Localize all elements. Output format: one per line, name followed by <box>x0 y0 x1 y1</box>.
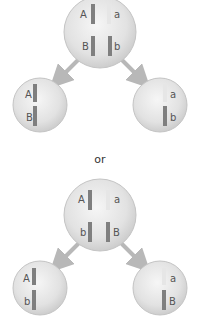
chromosome-a <box>107 4 111 24</box>
arrow-right-icon <box>120 242 142 264</box>
allele-label: A <box>25 89 32 100</box>
chromosome-B <box>162 290 166 310</box>
chromosome-b <box>108 36 112 56</box>
chromosome-A <box>88 190 92 210</box>
allele-label: B <box>26 112 33 123</box>
daughter-cell-right-1: a b <box>133 78 187 132</box>
arrow-left-icon <box>58 242 80 264</box>
parent-cell-1: A a B b <box>64 0 136 68</box>
scenario-1: A a B b A B a b <box>13 0 187 132</box>
diagram-canvas: A a B b A B a b or <box>0 0 200 334</box>
allele-label: A <box>23 273 30 284</box>
allele-label: B <box>169 296 176 307</box>
daughter-cell-left-1: A B <box>13 78 67 132</box>
allele-label: a <box>170 273 176 284</box>
arrow-left-icon <box>58 58 80 80</box>
chromosome-A <box>33 84 37 102</box>
scenario-2: A a b B A b a B <box>13 179 187 315</box>
chromosome-b <box>88 222 92 242</box>
chromosome-b <box>163 106 167 126</box>
daughter-cell-left-2: A b <box>13 261 67 315</box>
chromosome-A <box>91 4 95 24</box>
allele-label: b <box>24 296 30 307</box>
allele-label: a <box>114 194 120 205</box>
or-separator: or <box>94 153 106 166</box>
allele-label: A <box>80 9 87 20</box>
allele-label: b <box>114 41 120 52</box>
arrow-right-icon <box>120 58 142 80</box>
allele-label: b <box>170 112 176 123</box>
chromosome-B <box>106 222 110 242</box>
allele-label: B <box>82 41 89 52</box>
chromosome-a <box>162 268 166 285</box>
chromosome-A <box>32 268 36 285</box>
chromosome-B <box>91 36 95 56</box>
allele-label: B <box>113 227 120 238</box>
chromosome-B <box>33 106 37 126</box>
chromosome-a <box>163 84 167 102</box>
parent-cell-2: A a b B <box>64 179 136 251</box>
allele-label: a <box>114 9 120 20</box>
chromosome-a <box>106 190 110 210</box>
allele-label: b <box>80 227 86 238</box>
allele-label: A <box>78 194 85 205</box>
allele-label: a <box>170 89 176 100</box>
chromosome-b <box>32 290 36 310</box>
daughter-cell-right-2: a B <box>133 261 187 315</box>
